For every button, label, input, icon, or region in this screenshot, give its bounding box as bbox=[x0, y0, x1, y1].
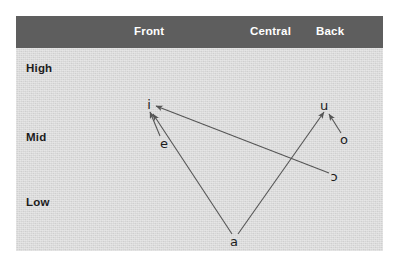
vowel-a: a bbox=[230, 235, 238, 248]
vowel-e: e bbox=[160, 137, 168, 150]
column-header-back: Back bbox=[316, 25, 344, 37]
arrow-a-to-u bbox=[238, 112, 324, 234]
column-header-front: Front bbox=[134, 25, 164, 37]
chart-header-bar: Front Central Back bbox=[16, 16, 383, 48]
column-header-central: Central bbox=[250, 25, 291, 37]
row-label-mid: Mid bbox=[26, 131, 46, 143]
arrow-e-to-i bbox=[150, 112, 160, 136]
arrow-a-to-i bbox=[153, 114, 232, 234]
vowel-shift-arrows bbox=[16, 16, 383, 251]
vowel-open-o: ɔ bbox=[330, 170, 337, 183]
vowel-o: o bbox=[340, 133, 348, 146]
chart-background-texture bbox=[16, 48, 383, 251]
row-label-high: High bbox=[26, 62, 52, 74]
vowel-i: i bbox=[147, 98, 151, 111]
arrow-openo-to-i bbox=[156, 106, 329, 173]
vowel-chart: Front Central Back High Mid Low i e a u … bbox=[16, 16, 383, 251]
row-label-low: Low bbox=[26, 196, 50, 208]
vowel-u: u bbox=[320, 99, 328, 112]
arrow-o-to-u bbox=[329, 114, 341, 133]
